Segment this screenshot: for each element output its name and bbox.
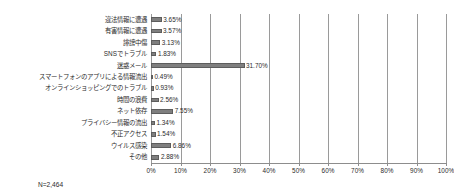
x-axis-tick-mark bbox=[387, 163, 388, 166]
bar bbox=[151, 121, 155, 126]
x-axis-tick-mark bbox=[446, 163, 447, 166]
bar-value-label: 3.57% bbox=[163, 27, 181, 35]
bar-row: 有害情報に遭遇3.57% bbox=[0, 25, 449, 36]
bar-value-label: 3.13% bbox=[162, 39, 180, 47]
bar-value-label: 2.56% bbox=[160, 96, 178, 104]
bar bbox=[151, 40, 160, 45]
bar-and-value: 3.13% bbox=[151, 37, 180, 48]
x-axis-tick-mark bbox=[299, 163, 300, 166]
bar-row: 不正アクセス1.54% bbox=[0, 129, 449, 140]
bar bbox=[151, 17, 162, 22]
category-label: 違法情報に遭遇 bbox=[0, 16, 147, 24]
bar-and-value: 3.65% bbox=[151, 14, 181, 25]
bar-value-label: 1.54% bbox=[157, 130, 175, 138]
bar-value-label: 0.93% bbox=[155, 84, 173, 92]
category-label: オンラインショッピングでのトラブル bbox=[0, 84, 147, 92]
x-axis-tick-mark bbox=[269, 163, 270, 166]
category-label: 誹謗中傷 bbox=[0, 39, 147, 47]
category-label: スマートフォンのアプリによる情報流出 bbox=[0, 73, 147, 81]
bar bbox=[151, 109, 173, 114]
category-label: 有害情報に遭遇 bbox=[0, 27, 147, 35]
bar bbox=[151, 29, 162, 34]
bar bbox=[151, 86, 154, 91]
bar-and-value: 1.34% bbox=[151, 117, 175, 128]
category-label: ウイルス感染 bbox=[0, 142, 147, 150]
category-label: その他 bbox=[0, 153, 147, 161]
bar-and-value: 1.83% bbox=[151, 48, 176, 59]
x-axis-tick-label: 30% bbox=[233, 167, 246, 175]
sample-size-note: N=2,464 bbox=[38, 180, 63, 189]
bar-row: ネット依存7.55% bbox=[0, 106, 449, 117]
x-axis-tick-mark bbox=[210, 163, 211, 166]
bar-row: 誹謗中傷3.13% bbox=[0, 37, 449, 48]
bar-and-value: 7.55% bbox=[151, 106, 193, 117]
bar bbox=[151, 98, 159, 103]
bar bbox=[151, 63, 245, 68]
x-axis-tick-mark bbox=[328, 163, 329, 166]
bar-row: 迷惑メール31.70% bbox=[0, 60, 449, 71]
bar bbox=[151, 52, 156, 57]
bar-value-label: 2.88% bbox=[161, 153, 179, 161]
bar bbox=[151, 143, 171, 148]
bar-value-label: 3.65% bbox=[163, 16, 181, 24]
x-axis-tick-label: 90% bbox=[410, 167, 423, 175]
bar bbox=[151, 75, 153, 80]
x-axis-tick-mark bbox=[240, 163, 241, 166]
bar-and-value: 6.86% bbox=[151, 140, 191, 151]
x-axis-tick-mark bbox=[358, 163, 359, 166]
bar-row: オンラインショッピングでのトラブル0.93% bbox=[0, 83, 449, 94]
bar-value-label: 1.83% bbox=[158, 50, 176, 58]
category-label: 迷惑メール bbox=[0, 62, 147, 70]
bar-row: プライバシー情報の流出1.34% bbox=[0, 117, 449, 128]
bar-value-label: 0.49% bbox=[155, 73, 173, 81]
category-label: 時間の浪費 bbox=[0, 96, 147, 104]
x-axis-tick-label: 80% bbox=[381, 167, 394, 175]
x-axis-tick-mark bbox=[181, 163, 182, 166]
bar-value-label: 1.34% bbox=[156, 119, 174, 127]
bar-and-value: 2.88% bbox=[151, 152, 179, 163]
x-axis-tick-label: 40% bbox=[263, 167, 276, 175]
x-axis-tick-label: 100% bbox=[438, 167, 454, 175]
bar-row: 時間の浪費2.56% bbox=[0, 94, 449, 105]
x-axis-tick-label: 50% bbox=[292, 167, 305, 175]
bar-and-value: 0.93% bbox=[151, 83, 173, 94]
bar-and-value: 31.70% bbox=[151, 60, 268, 71]
x-axis-tick-label: 0% bbox=[146, 167, 155, 175]
category-label: 不正アクセス bbox=[0, 130, 147, 138]
x-axis-tick-label: 10% bbox=[174, 167, 187, 175]
bar-and-value: 1.54% bbox=[151, 129, 175, 140]
bar-value-label: 6.86% bbox=[173, 142, 191, 150]
bar-row: ウイルス感染6.86% bbox=[0, 140, 449, 151]
bar-and-value: 0.49% bbox=[151, 71, 173, 82]
bar-value-label: 7.55% bbox=[175, 107, 193, 115]
bar-row: SNSでトラブル1.83% bbox=[0, 48, 449, 59]
bar-row: スマートフォンのアプリによる情報流出0.49% bbox=[0, 71, 449, 82]
x-axis-tick-mark bbox=[417, 163, 418, 166]
x-axis-tick-label: 20% bbox=[204, 167, 217, 175]
bar-value-label: 31.70% bbox=[246, 62, 268, 70]
category-label: ネット依存 bbox=[0, 107, 147, 115]
bar bbox=[151, 155, 159, 160]
category-label: SNSでトラブル bbox=[0, 50, 147, 58]
bar-and-value: 3.57% bbox=[151, 25, 181, 36]
x-axis-tick-label: 70% bbox=[351, 167, 364, 175]
bar bbox=[151, 132, 156, 137]
x-axis-tick-mark bbox=[151, 163, 152, 166]
x-axis-tick-label: 60% bbox=[322, 167, 335, 175]
category-label: プライバシー情報の流出 bbox=[0, 119, 147, 127]
bar-row: 違法情報に遭遇3.65% bbox=[0, 14, 449, 25]
bar-row: その他2.88% bbox=[0, 152, 449, 163]
bar-and-value: 2.56% bbox=[151, 94, 178, 105]
